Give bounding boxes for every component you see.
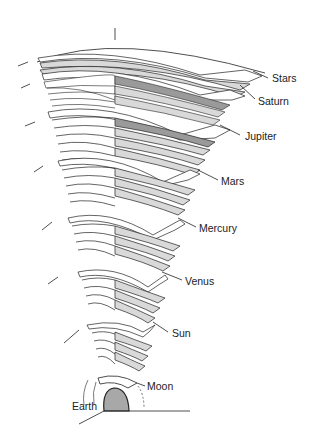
sphere-venus	[78, 270, 168, 323]
label-venus: Venus	[185, 275, 214, 287]
label-mars: Mars	[221, 175, 244, 187]
sphere-sun	[87, 323, 155, 371]
celestial-spheres-diagram: Stars Saturn Jupiter Mars Mercury Venus …	[0, 0, 311, 443]
sphere-moon	[98, 376, 137, 388]
label-jupiter: Jupiter	[245, 130, 277, 142]
label-earth: Earth	[72, 400, 97, 412]
sphere-mercury	[68, 215, 185, 271]
label-mercury: Mercury	[199, 222, 238, 234]
label-saturn: Saturn	[258, 95, 289, 107]
sphere-stars-saturn	[38, 54, 262, 100]
label-sun: Sun	[172, 327, 191, 339]
left-tick-marks	[18, 62, 79, 343]
label-moon: Moon	[147, 380, 173, 392]
label-stars: Stars	[272, 72, 297, 84]
